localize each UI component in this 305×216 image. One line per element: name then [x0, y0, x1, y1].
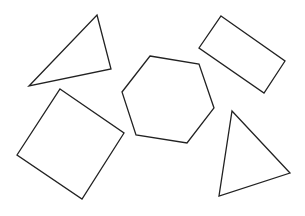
hexagon-center — [122, 56, 214, 143]
triangle-bottom-right — [219, 111, 290, 196]
shapes-canvas — [0, 0, 305, 216]
shapes-svg — [0, 0, 305, 216]
rectangle-top-right — [199, 16, 285, 93]
triangle-top-left — [29, 15, 111, 86]
square-bottom-left — [17, 89, 124, 199]
